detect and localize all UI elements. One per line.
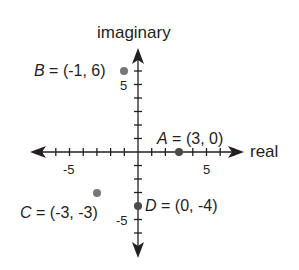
real-axis-label: real bbox=[250, 143, 278, 160]
x-tick-label-neg5: -5 bbox=[63, 163, 75, 176]
point-c-name: C bbox=[20, 204, 32, 221]
point-c-coords: = (-3, -3) bbox=[32, 204, 98, 221]
imaginary-axis bbox=[134, 55, 142, 252]
point-a-label: A = (3, 0) bbox=[157, 131, 223, 147]
point-b-marker bbox=[120, 67, 128, 75]
point-c-marker bbox=[93, 189, 101, 197]
point-d-name: D bbox=[145, 197, 157, 214]
point-a-marker bbox=[175, 148, 183, 156]
point-d-marker bbox=[134, 202, 142, 210]
real-axis bbox=[36, 148, 236, 156]
x-tick-label-5: 5 bbox=[203, 163, 210, 176]
y-tick-label-neg5: -5 bbox=[116, 214, 128, 227]
point-a-coords: = (3, 0) bbox=[168, 130, 224, 147]
point-d-coords: = (0, -4) bbox=[157, 197, 218, 214]
point-a-name: A bbox=[157, 130, 168, 147]
y-tick-label-5: 5 bbox=[120, 79, 127, 92]
point-d-label: D = (0, -4) bbox=[145, 198, 217, 214]
imaginary-axis-label: imaginary bbox=[97, 24, 171, 41]
point-b-name: B bbox=[34, 62, 45, 79]
point-b-coords: = (-1, 6) bbox=[45, 62, 106, 79]
point-b-label: B = (-1, 6) bbox=[34, 63, 106, 79]
point-c-label: C = (-3, -3) bbox=[20, 205, 98, 221]
